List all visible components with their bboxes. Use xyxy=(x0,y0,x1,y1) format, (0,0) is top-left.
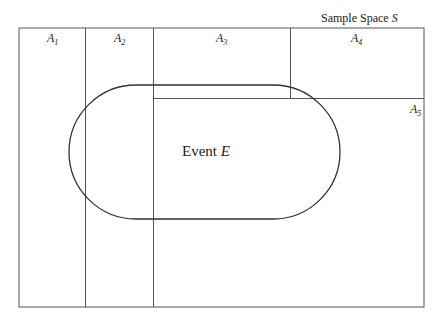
event-e-label: Event E xyxy=(182,143,230,160)
a1-index: 1 xyxy=(54,38,58,47)
a2-index: 2 xyxy=(121,38,125,47)
partition-label-a5: A5 xyxy=(410,102,421,118)
event-text: Event xyxy=(182,143,221,159)
sample-space-rect xyxy=(19,28,424,307)
partition-label-a2: A2 xyxy=(114,31,125,47)
partition-label-a4: A4 xyxy=(351,31,362,47)
sample-space-text: Sample Space xyxy=(321,11,392,25)
partition-label-a3: A3 xyxy=(216,31,227,47)
a4-index: 4 xyxy=(358,38,362,47)
partition-diagram xyxy=(0,0,441,320)
a5-index: 5 xyxy=(417,109,421,118)
sample-space-label: Sample Space S xyxy=(321,11,398,26)
a3-index: 3 xyxy=(223,38,227,47)
sample-space-symbol: S xyxy=(392,11,398,25)
partition-label-a1: A1 xyxy=(47,31,58,47)
event-symbol: E xyxy=(221,143,230,159)
